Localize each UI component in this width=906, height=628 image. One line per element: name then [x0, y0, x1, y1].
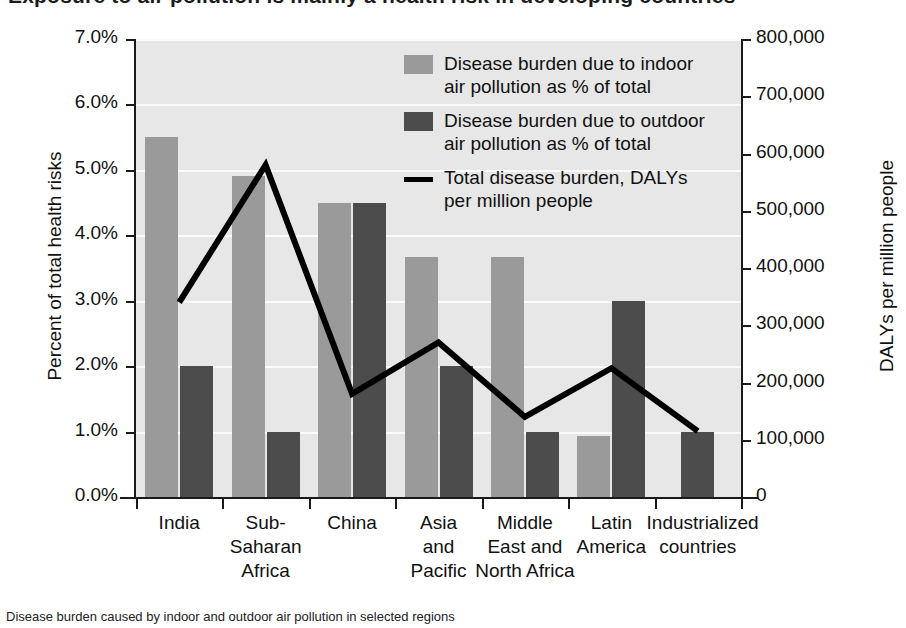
legend-label-line: Total disease burden, DALYs [444, 166, 688, 189]
y-tick-right [742, 325, 751, 327]
y-tick-right [742, 440, 751, 442]
x-tick [741, 499, 743, 509]
x-tick [395, 499, 397, 509]
x-tick-label-line: Africa [214, 559, 316, 583]
legend-label-total-dalys: Total disease burden, DALYsper million p… [444, 166, 688, 212]
y-tick-label-right: 100,000 [756, 427, 825, 449]
y-tick-right [742, 497, 751, 499]
legend-label-indoor: Disease burden due to indoorair pollutio… [444, 52, 693, 98]
y-tick-label-right: 200,000 [756, 370, 825, 392]
legend-label-outdoor: Disease burden due to outdoorair polluti… [444, 109, 705, 155]
y-tick-left [126, 432, 135, 434]
x-tick [222, 499, 224, 509]
y-tick-label-right: 300,000 [756, 312, 825, 334]
y-axis-left-title: Percent of total health risks [44, 51, 66, 481]
x-tick-label-line: Saharan [214, 535, 316, 559]
y-tick-label-left: 2.0% [0, 353, 118, 375]
x-tick-label: Industrializedcountries [647, 511, 749, 559]
y-tick-right [742, 383, 751, 385]
y-tick-right [742, 154, 751, 156]
y-tick-left [126, 235, 135, 237]
legend-item-outdoor: Disease burden due to outdoorair polluti… [404, 109, 724, 155]
y-tick-left [126, 39, 135, 41]
x-tick [482, 499, 484, 509]
y-tick-right [742, 96, 751, 98]
y-tick-left [126, 301, 135, 303]
legend-swatch-indoor-icon [404, 55, 433, 74]
y-tick-left [126, 104, 135, 106]
x-tick [136, 499, 138, 509]
x-tick-label-line: North Africa [474, 559, 576, 583]
y-tick-label-right: 400,000 [756, 255, 825, 277]
legend-label-line: Disease burden due to indoor [444, 52, 693, 75]
y-tick-left [126, 366, 135, 368]
figure-title: Exposure to air pollution is mainly a he… [0, 0, 906, 10]
y-tick-label-right: 500,000 [756, 198, 825, 220]
y-tick-label-right: 700,000 [756, 83, 825, 105]
y-tick-label-left: 5.0% [0, 157, 118, 179]
y-tick-right [742, 211, 751, 213]
x-tick [568, 499, 570, 509]
y-tick-right [742, 39, 751, 41]
y-tick-label-left: 3.0% [0, 288, 118, 310]
y-tick-label-left: 7.0% [0, 26, 118, 48]
y-axis-right-title: DALYs per million people [876, 51, 898, 481]
x-tick-label-line: Industrialized [647, 511, 749, 535]
y-tick-label-right: 800,000 [756, 26, 825, 48]
legend-label-line: Disease burden due to outdoor [444, 109, 705, 132]
y-tick-left [126, 497, 135, 499]
legend-item-total-dalys: Total disease burden, DALYsper million p… [404, 166, 724, 212]
y-tick-label-left: 0.0% [0, 484, 118, 506]
x-axis-line [120, 497, 758, 499]
y-tick-left [126, 170, 135, 172]
y-tick-label-right: 600,000 [756, 141, 825, 163]
figure-caption: Disease burden caused by indoor and outd… [0, 609, 906, 628]
y-tick-label-left: 6.0% [0, 91, 118, 113]
legend-label-line: per million people [444, 189, 688, 212]
legend-label-line: air pollution as % of total [444, 75, 693, 98]
y-tick-right [742, 268, 751, 270]
legend-swatch-outdoor-icon [404, 112, 433, 131]
legend-label-line: air pollution as % of total [444, 132, 705, 155]
legend-item-indoor: Disease burden due to indoorair pollutio… [404, 52, 724, 98]
x-tick [655, 499, 657, 509]
y-tick-label-left: 1.0% [0, 419, 118, 441]
y-tick-label-left: 4.0% [0, 222, 118, 244]
x-tick [309, 499, 311, 509]
y-tick-label-right: 0 [756, 484, 767, 506]
x-tick-label-line: countries [647, 535, 749, 559]
legend-line-icon [404, 169, 433, 188]
legend: Disease burden due to indoorair pollutio… [404, 52, 724, 223]
